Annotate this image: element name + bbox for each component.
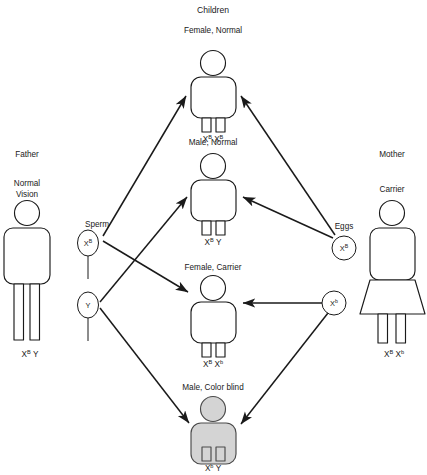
- child-1-leg-left: [202, 221, 211, 235]
- child-2-head: [201, 276, 226, 301]
- child-female-carrier: Female, Carrier XB Xb: [185, 263, 242, 369]
- sperm-label: Sperm: [85, 220, 109, 229]
- child-3-genotype: Xb Y: [205, 463, 222, 473]
- sperm-cell-1: XB: [78, 230, 99, 279]
- mother-phenotype: Carrier: [379, 185, 404, 194]
- father-leg-right: [30, 284, 40, 340]
- father-figure: [4, 201, 50, 341]
- child-1-body: [191, 180, 236, 221]
- child-0-label: Female, Normal: [184, 26, 242, 35]
- father-title: Father: [15, 150, 39, 159]
- mother-title: Mother: [379, 150, 405, 159]
- mother-genotype-sup2: b: [401, 349, 404, 355]
- sperm-group: Sperm XB Y: [78, 220, 110, 341]
- mother-genotype: XB Xb: [384, 349, 404, 359]
- child-3-head: [201, 397, 226, 422]
- child-2-leg-right: [216, 343, 225, 357]
- mother-body: [370, 228, 415, 280]
- sperm-cell-2: Y: [78, 292, 99, 341]
- child-1-label: Male, Normal: [189, 138, 238, 147]
- child-0-leg-left: [202, 118, 211, 132]
- child-1-leg-right: [216, 221, 225, 235]
- child-3-leg-left: [202, 447, 211, 461]
- arrow-eggXb-to-male-colorblind: [241, 313, 328, 424]
- mother-head: [380, 201, 405, 226]
- mother-leg-left: [378, 314, 388, 343]
- child-3-leg-right: [216, 447, 225, 461]
- mother-leg-right: [396, 314, 406, 343]
- father-phenotype-line1: Normal: [14, 179, 41, 188]
- child-2-label: Female, Carrier: [185, 263, 242, 272]
- child-2-body: [191, 302, 236, 343]
- child-male-normal: Male, Normal XB Y: [189, 138, 238, 247]
- child-2-leg-left: [202, 343, 211, 357]
- father-leg-left: [14, 284, 24, 340]
- father-phenotype-line2: Vision: [16, 190, 39, 199]
- egg-cell-1: XB: [332, 236, 356, 260]
- child-3-label: Male, Color blind: [182, 383, 244, 392]
- egg-cell-2: Xb: [322, 291, 346, 315]
- child-3-body: [191, 423, 236, 464]
- sperm-cell-2-allele: Y: [86, 301, 91, 310]
- child-female-normal: Female, Normal XB XB: [184, 26, 242, 144]
- arrow-eggXB-to-female-normal: [241, 96, 335, 235]
- children-heading: Children: [197, 5, 229, 15]
- arrow-spermXB-to-female-carrier: [103, 241, 188, 292]
- arrow-eggXB-to-male-normal: [243, 197, 333, 238]
- child-1-head: [201, 154, 226, 179]
- child-0-leg-right: [216, 118, 225, 132]
- child-male-colorblind: Male, Color blind Xb Y: [182, 383, 244, 473]
- father-genotype: XB Y: [22, 349, 39, 359]
- child-0-head: [201, 51, 226, 76]
- diagram-canvas: Children Father Normal Vision XB Y Mothe…: [0, 0, 427, 475]
- mother-skirt: [360, 280, 425, 314]
- arrow-spermXB-to-female-normal: [103, 96, 186, 236]
- father-genotype-base2: Y: [33, 350, 39, 359]
- mother-group: Mother Carrier XB Xb: [360, 150, 425, 359]
- child-1-genotype: XB Y: [205, 237, 222, 247]
- arrow-spermY-to-male-normal: [100, 197, 187, 302]
- mother-figure: [360, 201, 425, 344]
- child-2-genotype: XB Xb: [203, 359, 223, 369]
- father-group: Father Normal Vision XB Y: [4, 150, 50, 359]
- inheritance-diagram: Children Father Normal Vision XB Y Mothe…: [0, 0, 427, 475]
- father-head: [15, 201, 40, 226]
- arrow-spermY-to-male-colorblind: [100, 308, 189, 423]
- father-body: [4, 228, 50, 284]
- eggs-label: Eggs: [335, 222, 354, 231]
- child-0-body: [191, 77, 236, 118]
